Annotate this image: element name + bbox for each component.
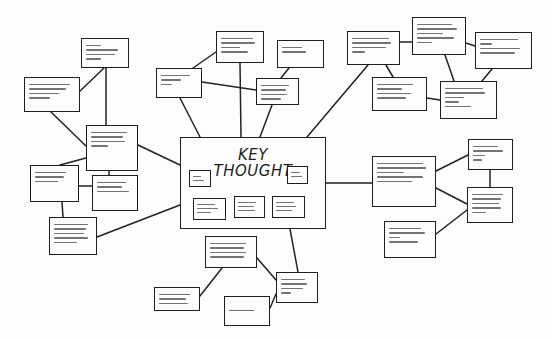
mind-map-node-f[interactable] bbox=[49, 217, 97, 255]
central-title-line-1: KEY bbox=[181, 148, 325, 163]
mind-map-node-k[interactable] bbox=[347, 31, 400, 65]
central-inner-note bbox=[287, 166, 308, 184]
mind-map-node-a[interactable] bbox=[81, 38, 129, 68]
mind-map-node-u[interactable] bbox=[154, 287, 200, 311]
mind-map-node-w[interactable] bbox=[276, 272, 318, 303]
mind-map-node-c[interactable] bbox=[86, 125, 138, 171]
central-inner-note bbox=[189, 170, 211, 187]
mind-map-node-g[interactable] bbox=[156, 68, 202, 98]
mind-map-node-o[interactable] bbox=[440, 81, 497, 119]
mind-map-node-t[interactable] bbox=[205, 236, 257, 268]
mind-map-node-m[interactable] bbox=[475, 32, 532, 69]
central-inner-note bbox=[234, 196, 265, 218]
mind-map-node-v[interactable] bbox=[224, 296, 270, 326]
mind-map-node-r[interactable] bbox=[467, 187, 513, 223]
mind-map-node-l[interactable] bbox=[412, 17, 466, 55]
mind-map-node-j[interactable] bbox=[256, 78, 299, 105]
mind-map-node-e[interactable] bbox=[92, 175, 138, 211]
mind-map-node-p[interactable] bbox=[372, 156, 436, 207]
central-inner-note bbox=[272, 196, 305, 218]
mind-map-node-b[interactable] bbox=[24, 77, 80, 112]
central-inner-note bbox=[193, 198, 226, 220]
mind-map-node-s[interactable] bbox=[384, 221, 436, 258]
mind-map-node-i[interactable] bbox=[277, 40, 324, 68]
mind-map-node-d[interactable] bbox=[30, 165, 79, 202]
mind-map-node-q[interactable] bbox=[468, 139, 513, 170]
central-node-key-thought[interactable]: KEY THOUGHT bbox=[180, 137, 326, 229]
mind-map-node-h[interactable] bbox=[216, 31, 264, 63]
mind-map-node-n[interactable] bbox=[372, 77, 427, 111]
